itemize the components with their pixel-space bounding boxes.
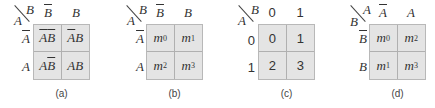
- cell-11: 3: [287, 52, 315, 79]
- row-header-1: B: [349, 60, 367, 73]
- cell-11: AB: [62, 52, 90, 79]
- col-header-0: B: [34, 6, 62, 19]
- kmap-grid: m0 m2 m1 m3: [369, 24, 426, 80]
- row-header-1: 1: [237, 61, 255, 74]
- kmap-b: B A B B A A m0 m1 m2 m3 (b): [113, 0, 221, 108]
- cell-01: AB: [62, 25, 90, 52]
- row-header-0: 0: [237, 34, 255, 47]
- cell-01: m2: [398, 25, 426, 52]
- kmap-a: B A B B A A AB AB AB AB (a): [0, 0, 108, 108]
- kmap-c: B A 0 1 0 1 0 1 2 3 (c): [225, 0, 333, 108]
- row-header-1: A: [126, 60, 144, 73]
- corner-var-left: A: [127, 14, 135, 27]
- kmap-grid: AB AB AB AB: [33, 24, 90, 80]
- cell-00: m0: [370, 25, 398, 52]
- caption: (a): [33, 88, 90, 99]
- kmap-d: A B A A B B m0 m2 m1 m3 (d): [336, 0, 435, 108]
- cell-10: 2: [259, 52, 287, 79]
- cell-00: 0: [259, 25, 287, 52]
- cell-11: m3: [175, 52, 203, 79]
- cell-01: 1: [287, 25, 315, 52]
- corner-var-left: A: [238, 14, 246, 27]
- col-header-0: B: [146, 6, 174, 19]
- cell-10: AB: [34, 52, 62, 79]
- row-header-0: A: [126, 32, 144, 45]
- cell-10: m2: [147, 52, 175, 79]
- corner-var-left: A: [14, 14, 22, 27]
- caption: (b): [146, 88, 203, 99]
- col-header-1: B: [174, 6, 202, 19]
- col-header-1: B: [62, 6, 90, 19]
- caption: (c): [258, 88, 315, 99]
- cell-00: AB: [34, 25, 62, 52]
- caption: (d): [369, 88, 426, 99]
- row-header-1: A: [12, 60, 30, 73]
- row-header-0: B: [349, 32, 367, 45]
- cell-00: m0: [147, 25, 175, 52]
- col-header-0: 0: [258, 6, 286, 19]
- cell-10: m1: [370, 52, 398, 79]
- cell-01: m1: [175, 25, 203, 52]
- col-header-1: A: [397, 6, 425, 19]
- kmap-grid: m0 m1 m2 m3: [146, 24, 203, 80]
- corner-var-top: B: [26, 3, 34, 16]
- corner-var-left: B: [350, 15, 358, 28]
- kmap-grid: 0 1 2 3: [258, 24, 315, 80]
- col-header-1: 1: [286, 6, 314, 19]
- cell-11: m3: [398, 52, 426, 79]
- col-header-0: A: [369, 6, 397, 19]
- row-header-0: A: [12, 32, 30, 45]
